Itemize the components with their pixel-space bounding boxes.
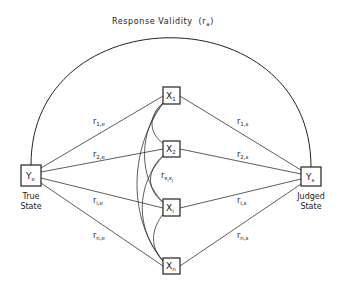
true-state-node: Ye True State xyxy=(20,165,41,211)
svg-text:ri,e: ri,e xyxy=(93,196,104,206)
utilization-labels: r1,s r2,s ri,s rn,s xyxy=(237,117,249,241)
cue-node-xi: Xi xyxy=(163,199,180,216)
svg-text:Judged: Judged xyxy=(296,192,325,201)
cue-node-xn: Xn xyxy=(163,258,180,274)
svg-text:rn,e: rn,e xyxy=(93,231,106,241)
svg-text:State: State xyxy=(20,202,41,211)
intercue-correlation-curves xyxy=(137,102,164,262)
cue-node-x2: X2 xyxy=(163,141,180,157)
lens-model-diagram: Ye True State Ys Judged State X1 X2 Xi X… xyxy=(0,0,342,285)
svg-text:r2,e: r2,e xyxy=(93,150,106,160)
response-validity-title: Response Validity(ra) xyxy=(112,17,214,27)
svg-text:rn,s: rn,s xyxy=(237,231,249,241)
svg-text:State: State xyxy=(300,202,321,211)
svg-text:r1,e: r1,e xyxy=(93,117,106,127)
svg-text:r2,s: r2,s xyxy=(237,150,249,160)
svg-text:ri,s: ri,s xyxy=(237,196,247,206)
judged-state-node: Ys Judged State xyxy=(296,167,325,211)
cue-node-x1: X1 xyxy=(163,87,180,104)
svg-text:True: True xyxy=(22,192,40,201)
intercue-label: rxixj xyxy=(161,171,173,183)
svg-text:r1,s: r1,s xyxy=(237,117,249,127)
